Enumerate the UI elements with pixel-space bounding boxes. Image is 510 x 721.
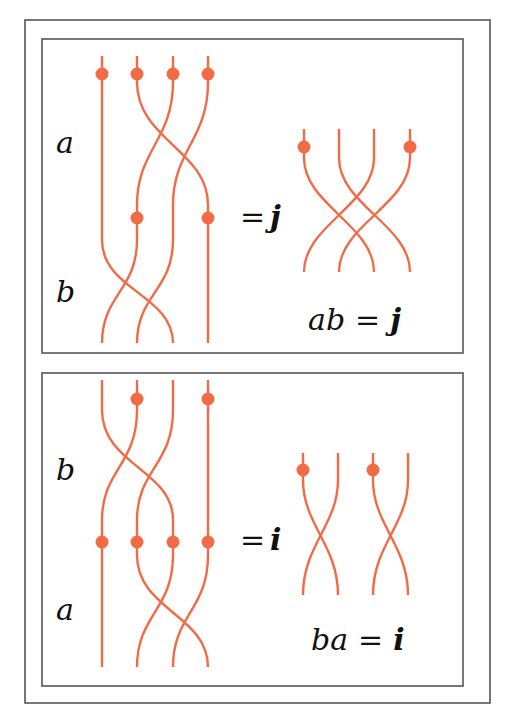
- bottom-left-nodes: [96, 393, 215, 549]
- node: [96, 536, 109, 549]
- node: [202, 393, 215, 406]
- equation-rhs: j: [385, 302, 401, 337]
- node: [167, 68, 180, 81]
- label-lower: b: [56, 274, 75, 309]
- top-left-braid: [102, 56, 208, 343]
- node: [96, 68, 109, 81]
- equation-eq: =: [358, 622, 383, 657]
- equation-rhs: i: [393, 622, 404, 657]
- bottom-left-braid: [102, 380, 208, 667]
- label-upper: b: [56, 452, 75, 487]
- result-symbol: i: [270, 522, 281, 557]
- node: [131, 536, 144, 549]
- outer-frame: [25, 20, 490, 703]
- node: [131, 393, 144, 406]
- node: [202, 68, 215, 81]
- top-right-braid: [298, 129, 417, 272]
- node: [297, 464, 310, 477]
- bottom-right-braid: [297, 453, 409, 595]
- equals-sign: =: [240, 522, 265, 557]
- label-upper: a: [56, 125, 74, 160]
- equation-ba-i: ba = i: [311, 622, 405, 657]
- node: [167, 536, 180, 549]
- equation-lhs: ab: [308, 302, 345, 337]
- node: [131, 68, 144, 81]
- equation-ab-j: ab = j: [308, 302, 401, 337]
- equation-lhs: ba: [311, 622, 348, 657]
- equation-eq: =: [355, 302, 380, 337]
- node: [367, 464, 380, 477]
- label-lower: a: [56, 592, 74, 627]
- braid-diagram: a b = j ab = j b a = i: [0, 0, 510, 721]
- equals-sign: =: [240, 199, 265, 234]
- node: [202, 536, 215, 549]
- node: [131, 212, 144, 225]
- node: [202, 212, 215, 225]
- result-symbol: j: [265, 199, 281, 234]
- node: [404, 141, 417, 154]
- node: [298, 141, 311, 154]
